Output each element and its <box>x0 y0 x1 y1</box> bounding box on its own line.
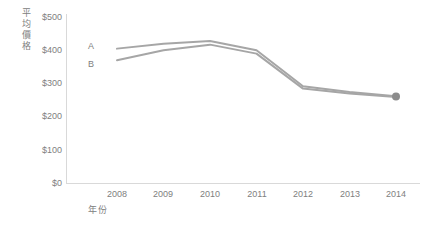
x-axis-title: 年份 <box>88 205 107 215</box>
x-tick-label: 2008 <box>95 190 139 199</box>
x-tick-label: 2014 <box>374 190 418 199</box>
x-tick-label: 2013 <box>328 190 372 199</box>
x-axis-tick-labels: 2008 2009 2010 2011 2012 2013 2014 <box>0 0 427 228</box>
x-tick-label: 2009 <box>141 190 185 199</box>
x-tick-label: 2011 <box>235 190 279 199</box>
x-tick-label: 2012 <box>281 190 325 199</box>
x-tick-label: 2010 <box>188 190 232 199</box>
line-chart: 平均價格 $500 $400 $300 $200 $100 $0 A B 200… <box>0 0 427 228</box>
